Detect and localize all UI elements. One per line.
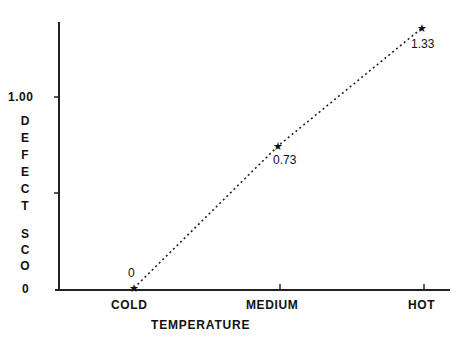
y-label-char: S bbox=[18, 227, 32, 241]
y-label-char: O bbox=[18, 259, 32, 273]
y-tick-label-0: 0 bbox=[22, 282, 29, 296]
y-label-char: E bbox=[18, 131, 32, 145]
x-axis-title: TEMPERATURE bbox=[151, 318, 250, 332]
y-label-char: F bbox=[18, 148, 32, 162]
marker-cold: ★ bbox=[129, 282, 139, 294]
y-label-char: D bbox=[18, 114, 32, 128]
data-label-hot: 1.33 bbox=[411, 37, 434, 51]
y-label-char: T bbox=[18, 199, 32, 213]
data-label-medium: 0.73 bbox=[273, 153, 296, 167]
x-category-medium: MEDIUM bbox=[246, 298, 298, 312]
x-category-cold: COLD bbox=[111, 298, 147, 312]
y-label-char: E bbox=[18, 165, 32, 179]
marker-hot: ★ bbox=[417, 22, 427, 34]
chart-canvas: ★ ★ ★ bbox=[0, 0, 462, 344]
x-category-hot: HOT bbox=[408, 298, 435, 312]
data-label-cold: 0 bbox=[128, 266, 135, 280]
y-tick-label-1: 1.00 bbox=[8, 90, 33, 104]
marker-medium: ★ bbox=[273, 140, 283, 152]
y-label-char: C bbox=[18, 243, 32, 257]
y-label-char: C bbox=[18, 182, 32, 196]
